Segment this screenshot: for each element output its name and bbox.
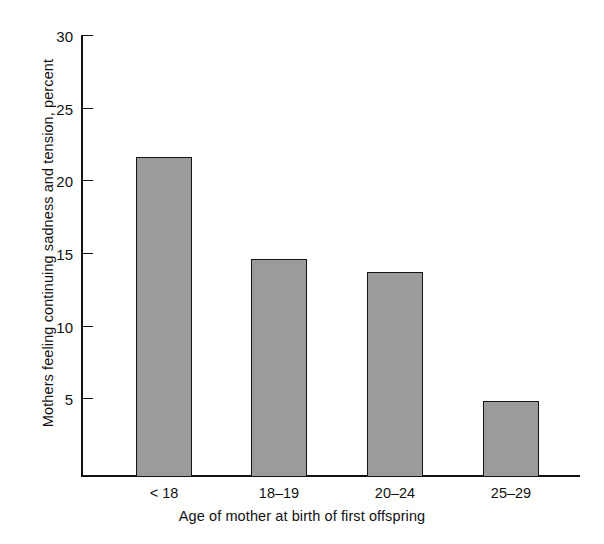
- y-tick-label-5: 5: [35, 392, 73, 407]
- x-tick-label-lt-18: < 18: [104, 485, 224, 501]
- y-tick-mark-30: [83, 35, 93, 36]
- bar-chart-figure: Mothers feeling continuing sadness and t…: [0, 0, 604, 544]
- y-tick-label-25: 25: [35, 102, 73, 117]
- x-tick-label-20-24: 20–24: [335, 485, 455, 501]
- x-axis-title: Age of mother at birth of first offsprin…: [0, 508, 604, 524]
- x-tick-label-18-19: 18–19: [219, 485, 339, 501]
- bar-25-29: [483, 401, 539, 477]
- bar-18-19: [251, 259, 307, 477]
- y-tick-mark-10: [83, 326, 93, 327]
- y-axis-line: [81, 35, 83, 477]
- y-tick-mark-20: [83, 180, 93, 181]
- y-tick-label-10: 10: [35, 320, 73, 335]
- y-tick-mark-25: [83, 108, 93, 109]
- bar-lt-18: [136, 157, 192, 477]
- y-tick-mark-5: [83, 398, 93, 399]
- x-tick-label-25-29: 25–29: [451, 485, 571, 501]
- y-tick-label-15: 15: [35, 247, 73, 262]
- y-tick-mark-15: [83, 253, 93, 254]
- y-tick-label-20: 20: [35, 174, 73, 189]
- y-tick-label-30: 30: [35, 29, 73, 44]
- plot-area: 30 25 20 15 10 5 < 18 18–19 20–24 25–29: [81, 35, 580, 477]
- bar-20-24: [367, 272, 423, 477]
